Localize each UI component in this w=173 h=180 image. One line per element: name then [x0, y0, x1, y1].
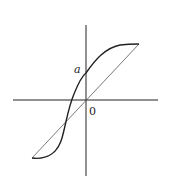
y-intercept-label: a	[74, 63, 81, 76]
origin-label: 0	[89, 105, 96, 118]
diagram-canvas: a 0	[0, 0, 173, 180]
